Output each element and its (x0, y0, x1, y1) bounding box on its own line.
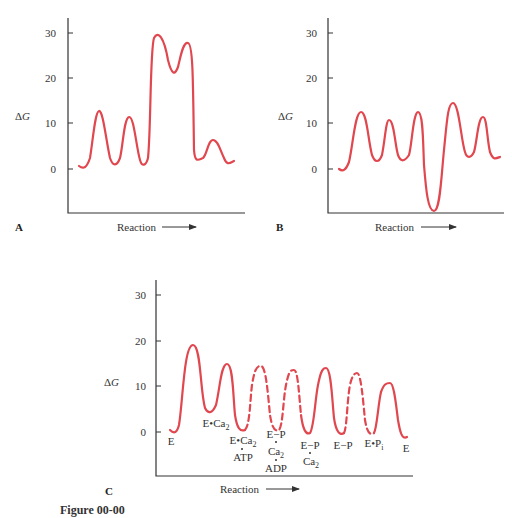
panel-b-yticks: 30 20 10 0 (306, 27, 333, 175)
tick-30: 30 (45, 27, 57, 39)
figure-caption: Figure 00-00 (60, 503, 125, 518)
y-axis-label-c: ΔG (104, 376, 119, 388)
state-e-pi: E•Pi (365, 437, 385, 452)
panel-c-curve-dashed-2 (344, 373, 374, 434)
panel-c: 30 20 10 0 ΔG E E•Ca2 E•Ca2 ATP E−P Ca2 … (104, 280, 413, 497)
panel-a: 30 20 10 0 ΔG A Reaction (15, 18, 245, 233)
tick-30: 30 (306, 27, 318, 39)
panel-c-letter: C (105, 485, 113, 497)
tick-10: 10 (45, 117, 57, 129)
tick-30: 30 (135, 289, 147, 301)
panel-c-yticks: 30 20 10 0 (135, 289, 161, 438)
panel-a-axes (68, 18, 245, 213)
state-atp: ATP (233, 451, 253, 463)
state-e-ca2: E•Ca2 (203, 417, 230, 432)
tick-20: 20 (306, 72, 318, 84)
tick-0: 0 (51, 163, 57, 175)
y-axis-label: ΔG (15, 110, 30, 122)
panel-c-state-labels: E E•Ca2 E•Ca2 ATP E−P Ca2 ADP E−P Ca2 E−… (168, 417, 410, 474)
panel-b-curve (339, 103, 500, 211)
state-e-end: E (403, 442, 410, 454)
panel-a-letter: A (15, 221, 23, 233)
state-ep: E−P (333, 439, 352, 451)
state-ep-ca2: E−P (300, 439, 319, 451)
x-axis-label-a: Reaction (117, 221, 157, 233)
panel-a-yticks: 30 20 10 0 (45, 27, 73, 175)
panel-b-letter: B (276, 221, 284, 233)
panel-a-curve (79, 35, 234, 168)
panel-c-curve-solid-2 (301, 368, 344, 434)
panel-c-curve-dashed-1 (245, 366, 301, 430)
state-e-start: E (168, 435, 175, 447)
state-ca2-b: Ca2 (303, 455, 319, 470)
y-axis-label-b: ΔG (278, 110, 293, 122)
tick-0: 0 (141, 426, 147, 438)
tick-20: 20 (45, 72, 57, 84)
tick-20: 20 (135, 335, 147, 347)
x-axis-label-b: Reaction (375, 221, 415, 233)
state-ca2: Ca2 (268, 445, 284, 460)
tick-10: 10 (135, 380, 147, 392)
state-e-ca2-atp: E•Ca2 (230, 434, 257, 449)
x-axis-label-c: Reaction (220, 483, 260, 495)
panel-c-curve-solid-3 (374, 383, 407, 438)
state-ep-ca2-adp: E−P (266, 428, 285, 440)
tick-10: 10 (306, 117, 318, 129)
state-adp: ADP (265, 462, 287, 474)
panel-b: 30 20 10 0 ΔG B Reaction (276, 18, 504, 233)
tick-0: 0 (312, 163, 318, 175)
